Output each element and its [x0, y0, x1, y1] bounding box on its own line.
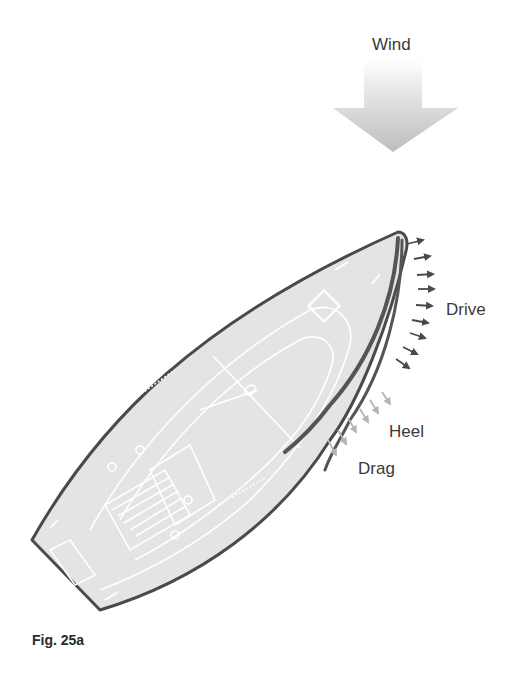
heel-label: Heel [389, 423, 424, 440]
sailing-forces-diagram: Wind Drive Heel Drag Fig. 25a [0, 0, 523, 686]
wind-label: Wind [372, 36, 411, 53]
figure-caption: Fig. 25a [32, 632, 84, 648]
wind-arrow-icon [333, 60, 458, 152]
drag-label: Drag [358, 460, 395, 477]
drive-label: Drive [446, 301, 486, 318]
